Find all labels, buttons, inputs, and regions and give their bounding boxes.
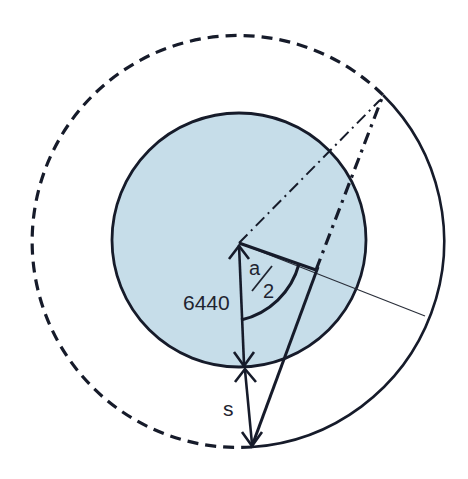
radius-label: 6440 (183, 291, 230, 314)
geometry-diagram: 6440 a 2 s (0, 0, 468, 479)
altitude-label: s (223, 397, 234, 420)
half-angle-denominator: 2 (263, 280, 274, 302)
altitude-dimension-arrow (235, 369, 262, 446)
half-angle-numerator: a (249, 257, 261, 279)
